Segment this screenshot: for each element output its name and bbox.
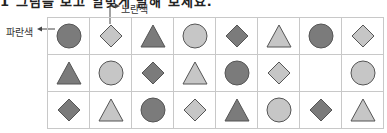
circle-icon (56, 23, 82, 49)
circle-icon (350, 60, 376, 86)
circle-icon (98, 60, 124, 86)
diamond-icon (182, 97, 208, 123)
diamond-icon (98, 23, 124, 49)
grid-cell-r3-c5 (216, 92, 258, 129)
diamond-icon (224, 23, 250, 49)
triangle-icon (182, 60, 208, 86)
grid-cell-r3-c4 (174, 92, 216, 129)
triangle-icon (98, 97, 124, 123)
diamond-icon (266, 60, 292, 86)
triangle-icon (56, 60, 82, 86)
grid-cell-r2-c7 (300, 55, 342, 92)
grid-cell-r2-c4 (174, 55, 216, 92)
grid-row (48, 18, 384, 55)
triangle-icon (140, 23, 166, 49)
label-blue: 파란색 (6, 24, 33, 39)
grid-row (48, 55, 384, 92)
grid-cell-r1-c5 (216, 18, 258, 55)
grid-cell-r2-c3 (132, 55, 174, 92)
grid-cell-r1-c7 (300, 18, 342, 55)
grid-cell-r3-c7 (300, 92, 342, 129)
circle-icon (140, 97, 166, 123)
grid-cell-r2-c8 (342, 55, 384, 92)
grid-cell-r3-c2 (90, 92, 132, 129)
grid-cell-r1-c4 (174, 18, 216, 55)
grid-cell-r3-c6 (258, 92, 300, 129)
circle-icon (224, 60, 250, 86)
circle-icon (182, 23, 208, 49)
label-yellow: 노란색 (121, 1, 148, 16)
grid-cell-r2-c2 (90, 55, 132, 92)
grid-cell-r2-c5 (216, 55, 258, 92)
grid-cell-r3-c8 (342, 92, 384, 129)
diamond-icon (56, 97, 82, 123)
grid-cell-r2-c1 (48, 55, 90, 92)
grid-cell-r2-c6 (258, 55, 300, 92)
grid-cell-r3-c1 (48, 92, 90, 129)
grid-cell-r1-c8 (342, 18, 384, 55)
circle-icon (266, 97, 292, 123)
grid-cell-r1-c1 (48, 18, 90, 55)
diamond-icon (350, 23, 376, 49)
grid-cell-r1-c6 (258, 18, 300, 55)
grid-cell-r3-c3 (132, 92, 174, 129)
circle-icon (308, 23, 334, 49)
triangle-icon (266, 23, 292, 49)
grid-row (48, 92, 384, 129)
diamond-icon (308, 97, 334, 123)
diamond-icon (140, 60, 166, 86)
shape-grid (47, 17, 384, 129)
triangle-icon (224, 97, 250, 123)
grid-cell-r1-c2 (90, 18, 132, 55)
triangle-icon (350, 97, 376, 123)
cutoff-heading: 1 그림을 보고 알맞게 말해 보세요. (0, 0, 213, 10)
grid-cell-r1-c3 (132, 18, 174, 55)
